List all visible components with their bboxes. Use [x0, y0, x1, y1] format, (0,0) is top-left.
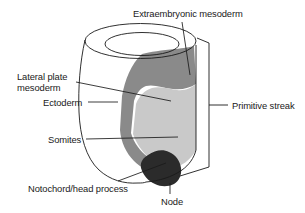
fate-map-regions: [120, 46, 196, 186]
label-lateral-plate-line1: Lateral plate: [17, 71, 67, 82]
label-primitive-streak: Primitive streak: [232, 100, 294, 111]
label-notochord-head-process: Notochord/head process: [28, 183, 128, 194]
label-ectoderm: Ectoderm: [43, 97, 82, 108]
figure-canvas: Extraembryonic mesoderm Lateral platemes…: [0, 0, 305, 213]
body-bottom-curve: [138, 182, 146, 183]
rim-inner-ellipse: [105, 33, 179, 56]
label-lateral-plate-line2: mesoderm: [17, 82, 60, 93]
label-lateral-plate-mesoderm: Lateral platemesoderm: [17, 71, 67, 93]
label-somites: Somites: [48, 134, 81, 145]
rim-outer-ellipse: [85, 24, 196, 59]
label-node: Node: [161, 196, 183, 207]
label-extraembryonic-mesoderm: Extraembryonic mesoderm: [133, 8, 243, 19]
